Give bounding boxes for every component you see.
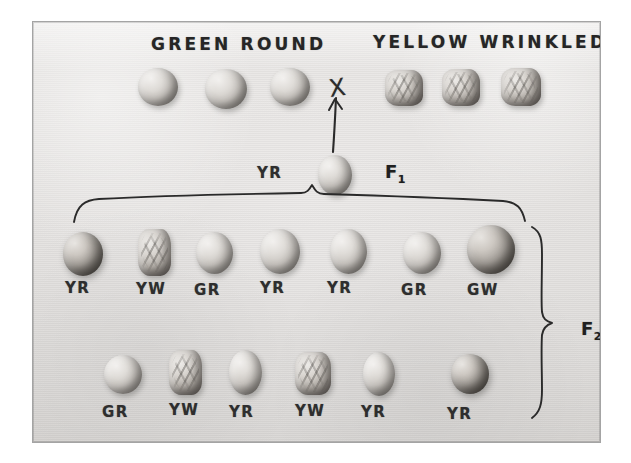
f2-row2-seed-1 — [104, 355, 142, 394]
f2-row1-label-5: YR — [327, 279, 352, 297]
seed-body — [318, 155, 352, 195]
f2-generation-label: F2 — [581, 318, 600, 343]
f2-row2-seed-5 — [363, 352, 395, 396]
parent-seed-green-round-1 — [138, 68, 178, 106]
seed-body — [138, 68, 178, 106]
f2-row1-label-1: YR — [65, 279, 90, 297]
f2-row2-label-4: YW — [295, 402, 325, 420]
f2-generation-letter: F — [581, 318, 594, 339]
seed-body — [104, 355, 142, 394]
f2-row1-label-2: YW — [136, 280, 166, 298]
f2-row1-label-3: GR — [194, 281, 221, 299]
f1-generation-letter: F — [385, 161, 398, 182]
f2-row1-seed-1 — [63, 232, 103, 276]
seed-body — [295, 352, 331, 395]
parent-label-yellow-wrinkled: YELLOW WRINKLED — [373, 32, 600, 52]
cross-symbol: X — [327, 73, 347, 103]
f1-generation-label: F1 — [385, 161, 406, 186]
seed-body — [169, 350, 202, 395]
f2-row1-label-4: YR — [260, 279, 285, 297]
seed-body — [63, 232, 103, 276]
seed-body — [229, 350, 262, 395]
seed-body — [467, 225, 515, 274]
parent-label-green-round: GREEN ROUND — [151, 34, 326, 54]
f1-seed-1 — [318, 155, 352, 195]
parent-seed-yellow-wrinkled-1 — [385, 70, 423, 106]
f1-generation-subscript: 1 — [398, 173, 406, 186]
f2-row1-seed-6 — [403, 232, 441, 274]
photo-print-area: GREEN ROUND YELLOW WRINKLED — [33, 22, 600, 442]
parent-seed-yellow-wrinkled-2 — [442, 69, 480, 106]
f2-row2-label-5: YR — [361, 403, 386, 421]
parent-seed-green-round-3 — [270, 68, 310, 106]
f1-genotype-label: YR — [257, 164, 282, 182]
f2-row1-seed-3 — [196, 232, 233, 274]
seed-body — [501, 68, 541, 106]
content-layer: GREEN ROUND YELLOW WRINKLED — [33, 22, 600, 442]
seed-body — [196, 232, 233, 274]
f2-row1-label-7: GW — [467, 281, 499, 299]
seed-body — [138, 229, 171, 276]
seed-body — [451, 354, 489, 394]
f2-row1-seed-2 — [138, 229, 171, 276]
f2-row1-seed-4 — [260, 229, 300, 274]
seed-body — [403, 232, 441, 274]
seed-body — [363, 352, 395, 396]
parent-seed-yellow-wrinkled-3 — [501, 68, 541, 106]
seed-body — [330, 229, 367, 274]
f2-row2-label-1: GR — [102, 403, 129, 421]
f2-row2-label-6: YR — [447, 405, 472, 423]
seed-body — [442, 69, 480, 106]
f2-row1-seed-5 — [330, 229, 367, 274]
seed-body — [205, 69, 247, 109]
f2-generation-subscript: 2 — [594, 330, 600, 343]
f2-row2-label-2: YW — [169, 401, 199, 419]
seed-body — [385, 70, 423, 106]
f2-row2-seed-4 — [295, 352, 331, 395]
seed-body — [260, 229, 300, 274]
parent-seed-green-round-2 — [205, 69, 247, 109]
f2-row2-seed-3 — [229, 350, 262, 395]
f2-row2-seed-6 — [451, 354, 489, 394]
f2-row1-seed-7 — [467, 225, 515, 274]
f2-row1-label-6: GR — [401, 281, 428, 299]
seed-body — [270, 68, 310, 106]
photographic-plate: GREEN ROUND YELLOW WRINKLED — [0, 0, 631, 463]
f2-row2-seed-2 — [169, 350, 202, 395]
f2-row2-label-3: YR — [229, 403, 254, 421]
